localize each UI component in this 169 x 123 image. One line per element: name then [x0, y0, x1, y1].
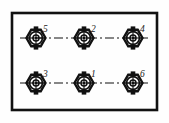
bolt-center-dot: [83, 37, 85, 39]
bolt-center-dot: [35, 82, 37, 84]
bolt-symbol-2[interactable]: 2: [75, 24, 97, 50]
engineering-drawing: 5 2 4: [0, 0, 169, 123]
bolt-label-4: 4: [140, 24, 145, 34]
bolt-center-dot: [132, 82, 134, 84]
bolt-symbol-6[interactable]: 6: [124, 69, 146, 95]
bolt-label-6: 6: [140, 69, 145, 79]
bolt-symbol-4[interactable]: 4: [124, 24, 146, 50]
bolt-label-2: 2: [91, 24, 96, 34]
bolt-label-1: 1: [91, 69, 96, 79]
bolt-symbol-5[interactable]: 5: [27, 24, 49, 50]
bolt-center-dot: [132, 37, 134, 39]
drawing-canvas: 5 2 4: [0, 0, 169, 123]
bolt-label-5: 5: [43, 24, 48, 34]
bolt-symbol-1[interactable]: 1: [75, 69, 96, 95]
bolt-center-dot: [35, 37, 37, 39]
bolt-label-3: 3: [42, 69, 48, 79]
bolt-center-dot: [83, 82, 85, 84]
bolt-symbol-3[interactable]: 3: [27, 69, 49, 95]
